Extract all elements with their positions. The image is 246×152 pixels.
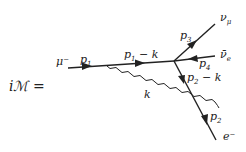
muon-label: μ⁻: [56, 56, 69, 67]
arrow-p2-icon: [201, 114, 208, 125]
p2-label: p2: [210, 111, 222, 125]
electron-label: e⁻: [223, 131, 235, 142]
p1k-tail: − k: [136, 48, 159, 61]
nu-e-sub: e: [227, 55, 231, 63]
amplitude-label: iℳ =: [9, 79, 45, 93]
p1-sub: 1: [87, 60, 91, 68]
p2k-symbol: p: [187, 71, 194, 84]
p4-symbol: p: [199, 57, 206, 70]
arrow-p4-icon: [188, 55, 198, 62]
p2-symbol: p: [210, 110, 217, 123]
p3-label: p3: [180, 30, 192, 44]
k-label: k: [144, 89, 151, 100]
p3-sub: 3: [187, 36, 191, 44]
p1k-symbol: p: [124, 48, 131, 61]
nu-e-symbol: ν̄: [220, 48, 227, 61]
arrow-p2k-icon: [178, 75, 185, 84]
nu-mu-label: νμ: [220, 12, 231, 26]
p3-symbol: p: [180, 29, 187, 42]
nu-mu-sub: μ: [227, 18, 232, 26]
p1-symbol: p: [80, 53, 87, 66]
p2k-tail: − k: [199, 71, 222, 84]
nu-mu-symbol: ν: [220, 11, 227, 24]
p1-minus-k-label: p1 − k: [124, 49, 158, 63]
nu-e-label: ν̄e: [220, 49, 231, 63]
p2-sub: 2: [217, 117, 221, 125]
p2-minus-k-label: p2 − k: [187, 72, 221, 86]
p1-label: p1: [80, 54, 92, 68]
